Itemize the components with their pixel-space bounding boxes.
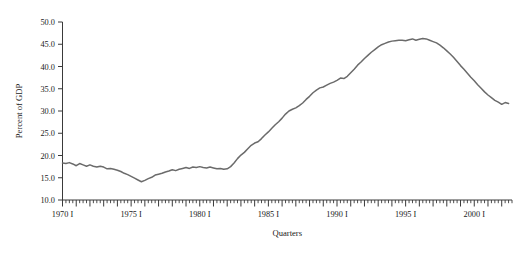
y-axis-ticks: 50.045.040.035.030.025.020.015.010.0: [40, 18, 62, 205]
x-axis-ticks: 1970 I1975 I1980 I1985 I1990 I1995 I2000…: [52, 200, 512, 219]
y-axis-title: Percent of GDP: [14, 84, 24, 139]
x-tick-label: 1990 I: [326, 210, 348, 219]
x-axis-title: Quarters: [272, 228, 302, 238]
y-tick-label: 25.0: [40, 129, 55, 138]
y-tick-label: 30.0: [40, 107, 55, 116]
y-tick-label: 50.0: [40, 18, 55, 27]
x-tick-label: 2000 I: [464, 210, 486, 219]
y-tick-label: 40.0: [40, 63, 55, 72]
chart-figure: 1970 I1975 I1980 I1985 I1990 I1995 I2000…: [0, 0, 526, 253]
x-tick-label: 1975 I: [120, 210, 142, 219]
series-line: [63, 38, 509, 181]
y-tick-label: 20.0: [40, 152, 55, 161]
x-tick-label: 1995 I: [395, 210, 417, 219]
x-tick-label: 1985 I: [258, 210, 280, 219]
line-chart: 1970 I1975 I1980 I1985 I1990 I1995 I2000…: [0, 0, 526, 253]
y-tick-label: 45.0: [40, 40, 55, 49]
y-tick-label: 35.0: [40, 85, 55, 94]
y-tick-label: 15.0: [40, 174, 55, 183]
data-series: [63, 38, 509, 181]
x-tick-label: 1970 I: [52, 210, 74, 219]
x-tick-label: 1980 I: [189, 210, 211, 219]
y-tick-label: 10.0: [40, 196, 55, 205]
